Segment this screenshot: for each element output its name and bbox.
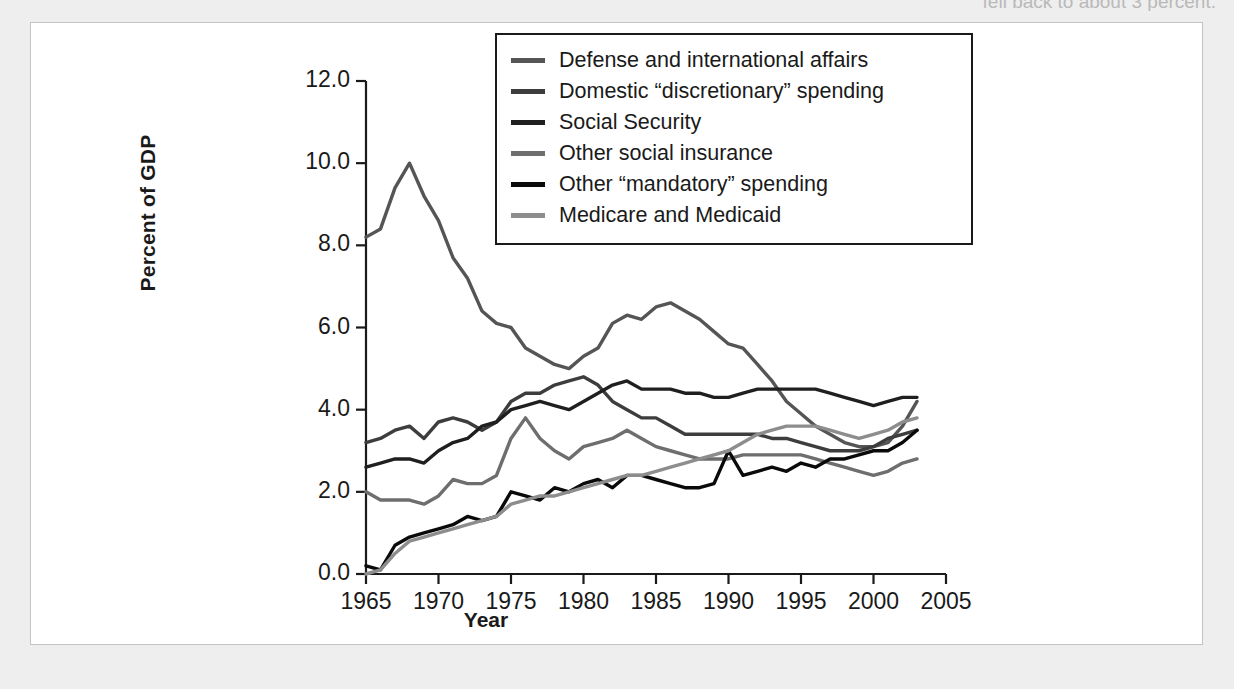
cutoff-body-text: fell back to about 3 percent. bbox=[0, 0, 1234, 11]
legend-swatch-icon bbox=[511, 89, 545, 94]
legend-item: Domestic “discretionary” spending bbox=[511, 76, 945, 107]
legend-swatch-icon bbox=[511, 213, 545, 218]
series-line-3 bbox=[366, 381, 917, 467]
legend-label: Other social insurance bbox=[559, 143, 773, 165]
legend-item: Medicare and Medicaid bbox=[511, 200, 945, 231]
chart-legend: Defense and international affairsDomesti… bbox=[495, 33, 973, 245]
legend-label: Domestic “discretionary” spending bbox=[559, 81, 884, 103]
line-chart: Percent of GDP Year 0.02.04.06.08.010.01… bbox=[31, 23, 1204, 646]
legend-label: Other “mandatory” spending bbox=[559, 174, 828, 196]
scan-page: fell back to about 3 percent. Percent of… bbox=[0, 0, 1234, 689]
legend-item: Social Security bbox=[511, 107, 945, 138]
legend-item: Defense and international affairs bbox=[511, 45, 945, 76]
legend-swatch-icon bbox=[511, 120, 545, 125]
legend-swatch-icon bbox=[511, 151, 545, 156]
legend-label: Medicare and Medicaid bbox=[559, 205, 781, 227]
figure-panel: Percent of GDP Year 0.02.04.06.08.010.01… bbox=[30, 22, 1203, 645]
legend-label: Social Security bbox=[559, 112, 701, 134]
legend-swatch-icon bbox=[511, 58, 545, 63]
legend-swatch-icon bbox=[511, 182, 545, 187]
legend-label: Defense and international affairs bbox=[559, 50, 868, 72]
series-line-6 bbox=[366, 418, 917, 574]
legend-item: Other “mandatory” spending bbox=[511, 169, 945, 200]
legend-item: Other social insurance bbox=[511, 138, 945, 169]
